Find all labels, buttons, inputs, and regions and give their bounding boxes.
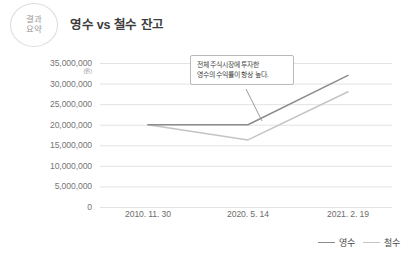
chart-header: 결과 요약 영수 vs 철수 잔고 xyxy=(0,0,416,48)
x-axis-tick-label: 2021. 2. 19 xyxy=(327,209,369,219)
legend-item[interactable]: 영수 xyxy=(318,236,355,249)
x-axis-tick-label: 2020. 5. 14 xyxy=(227,209,269,219)
chart-plot-area: 35,000,000(원)30,000,00025,000,00020,000,… xyxy=(0,48,416,257)
annotation-line-1: 전체 주식시장에 투자한 xyxy=(197,60,288,70)
legend-label: 영수 xyxy=(339,236,355,249)
result-summary-badge: 결과 요약 xyxy=(10,3,58,47)
chart-page: 결과 요약 영수 vs 철수 잔고 35,000,000(원)30,000,00… xyxy=(0,0,416,257)
annotation-callout: 전체 주식시장에 투자한 영수의 수익률이 항상 높다. xyxy=(190,55,294,85)
legend-label: 철수 xyxy=(384,236,400,249)
badge-line-2: 요약 xyxy=(26,25,43,35)
chart-legend: 영수철수 xyxy=(318,236,400,249)
page-title: 영수 vs 철수 잔고 xyxy=(70,14,164,33)
x-axis-tick-label: 2010. 11. 30 xyxy=(125,209,171,219)
legend-swatch-icon xyxy=(318,242,335,244)
annotation-line-2: 영수의 수익률이 항상 높다. xyxy=(197,70,288,80)
legend-item[interactable]: 철수 xyxy=(363,236,400,249)
legend-swatch-icon xyxy=(363,242,380,244)
